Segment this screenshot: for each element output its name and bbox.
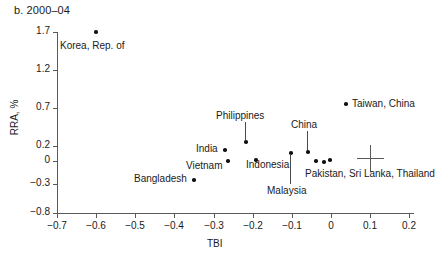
point-label-philippines: Philippines <box>216 110 264 121</box>
point-label-china: China <box>291 119 317 130</box>
x-tick-label: −0.5 <box>115 220 155 231</box>
data-point-thailand <box>328 158 332 162</box>
x-tick-mark <box>370 214 371 218</box>
y-tick-label: 1.7 <box>6 25 50 36</box>
point-label-bangladesh: Bangladesh <box>134 173 187 184</box>
data-point-philippines <box>244 140 248 144</box>
data-point-india <box>223 148 227 152</box>
x-tick-label: −0.6 <box>76 220 116 231</box>
point-label-malaysia: Malaysia <box>267 185 306 196</box>
y-tick-label: −0.8 <box>6 206 50 217</box>
x-axis-line <box>57 213 414 214</box>
x-tick-mark <box>135 214 136 218</box>
y-tick-label: 0.7 <box>6 101 50 112</box>
x-tick-label: −0.3 <box>194 220 234 231</box>
y-tick-label: 0 <box>6 154 50 165</box>
y-tick-mark <box>53 32 57 33</box>
x-tick-mark <box>214 214 215 218</box>
leader-line-malaysia <box>290 154 291 184</box>
data-point-korea <box>94 30 98 34</box>
data-point-sri-lanka <box>322 160 326 164</box>
x-tick-label: 0 <box>311 220 351 231</box>
point-label-korea: Korea, Rep. of <box>60 40 124 51</box>
y-tick-mark <box>53 108 57 109</box>
y-tick-mark <box>53 70 57 71</box>
x-tick-label: −0.2 <box>233 220 273 231</box>
x-tick-label: 0.1 <box>350 220 390 231</box>
point-label-taiwan: Taiwan, China <box>352 98 415 109</box>
x-tick-label: 0.2 <box>389 220 429 231</box>
x-tick-label: −0.7 <box>37 220 77 231</box>
data-point-china <box>306 150 310 154</box>
point-label-india: India <box>196 143 218 154</box>
y-axis-line <box>57 32 58 214</box>
y-tick-mark <box>53 161 57 162</box>
x-tick-mark <box>409 214 410 218</box>
x-tick-mark <box>96 214 97 218</box>
y-tick-mark <box>53 146 57 147</box>
data-point-taiwan <box>344 102 348 106</box>
x-tick-mark <box>174 214 175 218</box>
scatter-chart-figure: b. 2000–04 RRA, % TBI 1.7 1.2 0.7 0.2 0 … <box>0 0 447 261</box>
data-point-vietnam <box>226 159 230 163</box>
y-tick-label: 1.2 <box>6 63 50 74</box>
x-tick-label: −0.1 <box>272 220 312 231</box>
x-tick-mark <box>331 214 332 218</box>
y-tick-label: −0.3 <box>6 177 50 188</box>
x-tick-mark <box>253 214 254 218</box>
x-axis-title: TBI <box>207 238 223 249</box>
data-point-pakistan <box>314 159 318 163</box>
x-tick-mark <box>292 214 293 218</box>
x-tick-label: −0.4 <box>154 220 194 231</box>
leader-line-china <box>307 131 308 150</box>
point-label-indonesia: Indonesia <box>246 159 289 170</box>
leader-line-philippines <box>245 122 246 140</box>
figure-caption: b. 2000–04 <box>14 4 70 16</box>
data-point-bangladesh <box>192 178 196 182</box>
y-tick-label: 0.2 <box>6 139 50 150</box>
y-tick-mark <box>53 184 57 185</box>
x-tick-mark <box>57 214 58 218</box>
point-label-vietnam: Vietnam <box>186 160 223 171</box>
point-label-group-pakistan-srilanka-thailand: Pakistan, Sri Lanka, Thailand <box>305 168 435 179</box>
